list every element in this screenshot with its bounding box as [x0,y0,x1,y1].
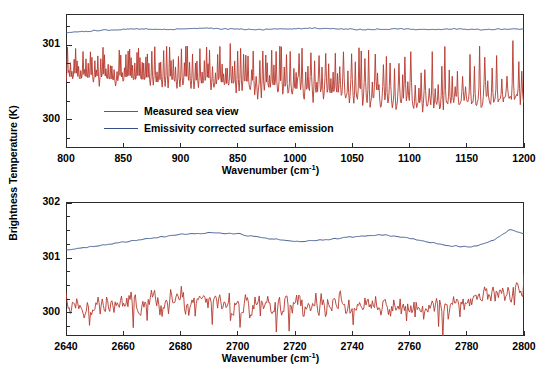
x-tick-mark [237,143,238,148]
x-tick-label: 1150 [437,152,497,164]
x-tick-label: 1200 [494,152,541,164]
x-axis-title-tail-bottom: ) [316,352,320,364]
legend-color-swatch [104,128,138,129]
x-tick-mark [352,143,353,148]
x-tick-label: 2700 [208,340,268,352]
x-axis-title-base-top: Wavenumber (cm [222,164,309,176]
x-tick-mark [524,331,525,336]
y-tick-mark [66,312,72,313]
series-line-measured [66,274,524,336]
x-tick-label: 2740 [322,340,382,352]
x-tick-mark [237,331,238,336]
series-line-corrected [66,28,524,33]
y-minor-tick-mark [66,244,70,245]
y-minor-tick-mark [66,285,70,286]
x-axis-title-bottom: Wavenumber (cm-1) [0,352,541,364]
x-tick-label: 1000 [265,152,325,164]
legend: Measured sea viewEmissivity corrected su… [104,104,334,135]
y-tick-mark [66,45,72,46]
y-tick-label: 301 [22,37,60,49]
x-tick-label: 850 [208,152,268,164]
x-tick-mark [66,143,67,148]
x-tick-mark [180,143,181,148]
y-tick-label: 301 [22,250,60,262]
y-tick-mark [66,258,72,259]
y-tick-mark [66,119,72,120]
x-tick-mark [180,331,181,336]
x-tick-mark [123,331,124,336]
x-tick-mark [524,143,525,148]
x-tick-mark [466,331,467,336]
x-tick-label: 2720 [265,340,325,352]
x-axis-title-exponent-bottom: -1 [309,351,316,360]
y-tick-label: 300 [22,112,60,124]
x-tick-label: 2760 [380,340,440,352]
x-tick-label: 1100 [380,152,440,164]
x-axis-title-base-bottom: Wavenumber (cm [222,352,309,364]
x-tick-mark [66,331,67,336]
y-minor-tick-mark [66,216,70,217]
figure-brightness-temperature-spectra: Brightness Temperature (K) 8008509008501… [0,0,541,379]
x-tick-label: 2640 [36,340,96,352]
x-tick-label: 2780 [437,340,497,352]
x-tick-mark [295,331,296,336]
x-tick-label: 900 [151,152,211,164]
y-minor-tick-mark [66,271,70,272]
y-tick-label: 300 [22,305,60,317]
series-line-measured [66,41,524,113]
series-line-corrected [66,230,524,250]
y-minor-tick-mark [66,230,70,231]
y-minor-tick-mark [66,26,70,27]
chart-panel-top: 80085090085010001050110011501200300301 M… [0,0,541,182]
x-tick-label: 2660 [93,340,153,352]
plot-area-bottom [66,202,524,336]
y-minor-tick-mark [66,82,70,83]
x-tick-label: 850 [93,152,153,164]
y-minor-tick-mark [66,326,70,327]
y-minor-tick-mark [66,63,70,64]
y-minor-tick-mark [66,299,70,300]
legend-label: Measured sea view [144,105,238,117]
x-axis-title-tail-top: ) [316,164,320,176]
y-tick-mark [66,203,72,204]
x-tick-mark [409,331,410,336]
x-tick-label: 2680 [151,340,211,352]
x-axis-title-top: Wavenumber (cm-1) [0,164,541,176]
legend-color-swatch [104,111,138,112]
x-tick-mark [466,143,467,148]
legend-label: Emissivity corrected surface emission [144,122,334,134]
legend-item: Measured sea view [104,104,334,118]
x-tick-mark [352,331,353,336]
y-tick-label: 302 [22,195,60,207]
x-tick-label: 1050 [322,152,382,164]
x-axis-title-exponent-top: -1 [309,163,316,172]
x-tick-label: 2800 [494,340,541,352]
x-tick-mark [123,143,124,148]
x-tick-mark [409,143,410,148]
y-minor-tick-mark [66,138,70,139]
y-minor-tick-mark [66,101,70,102]
x-tick-mark [295,143,296,148]
chart-panel-bottom: 2640266026802700272027402760278028003003… [0,188,541,379]
legend-item: Emissivity corrected surface emission [104,121,334,135]
x-tick-label: 800 [36,152,96,164]
